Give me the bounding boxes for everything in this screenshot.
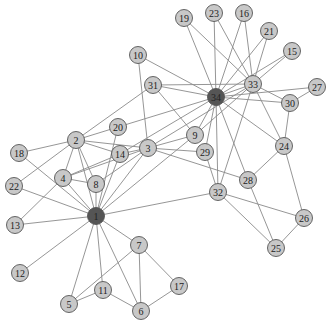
node-label: 18 xyxy=(14,148,24,159)
node-21: 21 xyxy=(261,23,278,40)
node-12: 12 xyxy=(12,265,29,282)
node-23: 23 xyxy=(206,5,223,22)
node-label: 22 xyxy=(9,181,19,192)
node-label: 5 xyxy=(67,299,72,310)
node-label: 7 xyxy=(137,240,142,251)
edge-1-5 xyxy=(69,216,96,304)
node-5: 5 xyxy=(61,296,78,313)
node-33: 33 xyxy=(245,76,262,93)
node-32: 32 xyxy=(210,184,227,201)
node-11: 11 xyxy=(95,282,112,299)
node-34: 34 xyxy=(208,89,225,106)
node-label: 6 xyxy=(139,306,144,317)
node-label: 27 xyxy=(312,82,322,93)
node-label: 26 xyxy=(299,213,309,224)
edge-1-11 xyxy=(96,216,103,290)
edge-28-34 xyxy=(216,97,248,180)
node-label: 24 xyxy=(279,141,289,152)
node-6: 6 xyxy=(133,303,150,320)
edge-23-33 xyxy=(214,13,253,84)
node-16: 16 xyxy=(236,5,253,22)
node-label: 28 xyxy=(243,175,253,186)
node-22: 22 xyxy=(6,178,23,195)
edge-1-12 xyxy=(20,216,96,273)
node-28: 28 xyxy=(240,172,257,189)
edge-1-32 xyxy=(96,192,218,216)
node-label: 11 xyxy=(98,285,108,296)
node-2: 2 xyxy=(68,132,85,149)
node-label: 17 xyxy=(174,281,184,292)
edge-31-34 xyxy=(153,85,216,97)
node-label: 31 xyxy=(148,80,158,91)
node-label: 23 xyxy=(209,8,219,19)
node-13: 13 xyxy=(7,217,24,234)
node-14: 14 xyxy=(112,146,129,163)
node-17: 17 xyxy=(171,278,188,295)
node-25: 25 xyxy=(268,240,285,257)
node-3: 3 xyxy=(140,140,157,157)
node-label: 25 xyxy=(271,243,281,254)
node-label: 15 xyxy=(287,46,297,57)
node-29: 29 xyxy=(197,144,214,161)
node-label: 20 xyxy=(113,122,123,133)
node-label: 30 xyxy=(285,98,295,109)
node-15: 15 xyxy=(284,43,301,60)
edge-1-13 xyxy=(15,216,96,225)
node-19: 19 xyxy=(176,10,193,27)
node-24: 24 xyxy=(276,138,293,155)
node-9: 9 xyxy=(187,127,204,144)
node-27: 27 xyxy=(309,79,326,96)
node-8: 8 xyxy=(88,176,105,193)
node-label: 4 xyxy=(61,173,66,184)
node-7: 7 xyxy=(131,237,148,254)
edge-19-33 xyxy=(184,18,253,84)
node-label: 2 xyxy=(74,135,79,146)
network-graph: 1234567891011121314151617181920212223242… xyxy=(0,0,329,324)
edge-24-26 xyxy=(284,146,304,218)
node-label: 29 xyxy=(200,147,210,158)
edge-19-34 xyxy=(184,18,216,97)
node-20: 20 xyxy=(110,119,127,136)
edges-layer xyxy=(14,13,317,311)
edge-24-34 xyxy=(216,97,284,146)
node-1: 1 xyxy=(88,208,105,225)
node-4: 4 xyxy=(55,170,72,187)
node-label: 8 xyxy=(94,179,99,190)
node-label: 12 xyxy=(15,268,25,279)
node-30: 30 xyxy=(282,95,299,112)
node-label: 3 xyxy=(146,143,151,154)
edge-32-34 xyxy=(216,97,218,192)
node-label: 16 xyxy=(239,8,249,19)
edge-25-28 xyxy=(248,180,276,248)
edge-1-22 xyxy=(14,186,96,216)
node-label: 32 xyxy=(213,187,223,198)
node-label: 14 xyxy=(115,149,125,160)
node-label: 33 xyxy=(248,79,258,90)
node-26: 26 xyxy=(296,210,313,227)
node-31: 31 xyxy=(145,77,162,94)
node-label: 34 xyxy=(211,92,221,103)
node-label: 13 xyxy=(10,220,20,231)
edge-31-33 xyxy=(153,84,253,85)
node-label: 19 xyxy=(179,13,189,24)
edge-3-4 xyxy=(63,148,148,178)
node-10: 10 xyxy=(130,47,147,64)
node-label: 21 xyxy=(264,26,274,37)
node-label: 9 xyxy=(193,130,198,141)
node-18: 18 xyxy=(11,145,28,162)
edge-3-10 xyxy=(138,55,148,148)
node-label: 1 xyxy=(94,211,99,222)
edge-16-33 xyxy=(244,13,253,84)
node-label: 10 xyxy=(133,50,143,61)
edge-6-7 xyxy=(139,245,141,311)
